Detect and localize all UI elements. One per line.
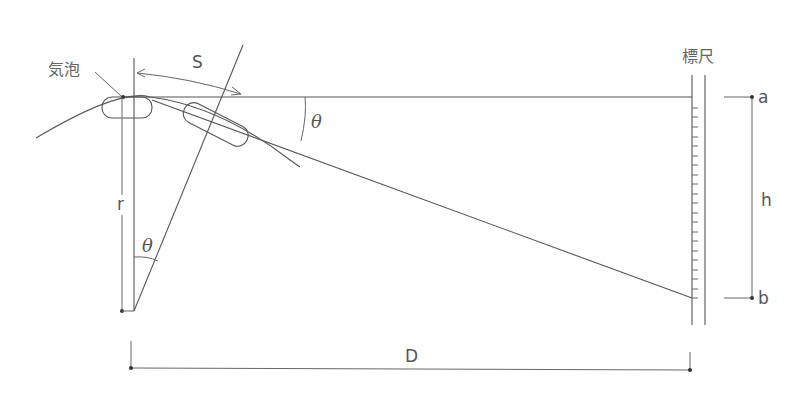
h-label: h	[761, 190, 772, 210]
angle-arc-top	[301, 97, 306, 141]
d-dimension-line	[131, 368, 690, 370]
point-a-label: a	[758, 87, 768, 107]
d-right-dot	[688, 368, 692, 372]
level-bubble-diagram: 気泡 r S θ θ 標尺	[0, 0, 790, 403]
arc-s	[137, 73, 241, 94]
d-label: D	[405, 346, 418, 366]
arc-s-label: S	[192, 52, 203, 72]
bubble-level	[102, 97, 152, 118]
sight-line	[152, 100, 692, 298]
staff-ticks	[692, 108, 698, 298]
point-a-dot	[750, 95, 754, 99]
radius-label: r	[117, 194, 124, 214]
bubble-tilted	[180, 99, 252, 149]
bubble-leader-line	[95, 72, 121, 96]
inclined-radius-line	[134, 45, 243, 311]
angle-label-top: θ	[311, 111, 322, 132]
point-b-dot	[750, 296, 754, 300]
angle-label-bottom: θ	[142, 235, 153, 256]
point-b-label: b	[758, 288, 769, 308]
staff-label: 標尺	[682, 47, 714, 66]
bubble-label: 気泡	[48, 60, 80, 79]
d-left-dot	[129, 366, 133, 370]
